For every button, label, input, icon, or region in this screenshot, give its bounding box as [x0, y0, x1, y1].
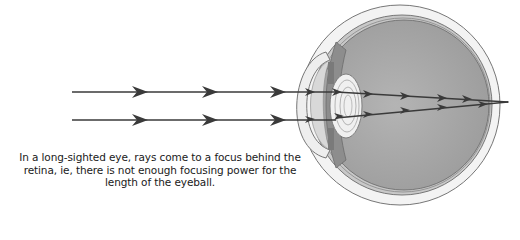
iris-lower — [328, 128, 334, 150]
caption-line-2: retina, ie, there is not enough focusing… — [0, 164, 320, 177]
focal-point — [507, 101, 509, 103]
diagram-caption: In a long-sighted eye, rays come to a fo… — [0, 151, 320, 189]
lens — [330, 74, 362, 138]
caption-line-1: In a long-sighted eye, rays come to a fo… — [0, 151, 320, 164]
caption-line-3: length of the eyeball. — [0, 176, 320, 189]
iris-upper — [328, 62, 334, 84]
